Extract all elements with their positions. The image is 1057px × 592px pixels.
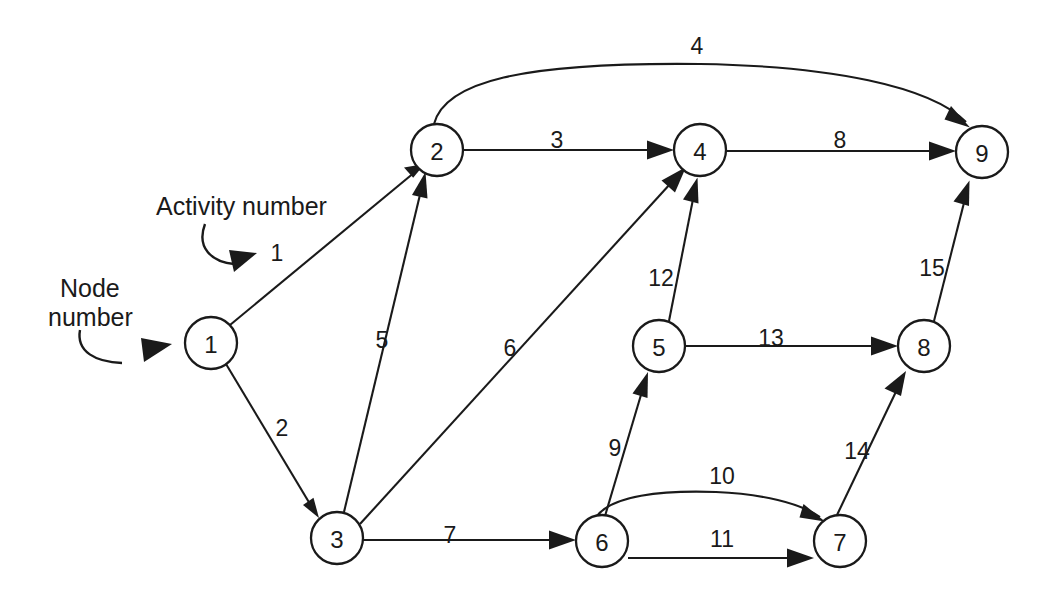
- arrowhead-icon: [885, 371, 907, 396]
- network-diagram-svg: 1 2 3 4 5 6 7 8 9 10 11 12 13 14 15 1 2: [0, 0, 1057, 592]
- annotation-activity-number: Activity number: [156, 192, 327, 272]
- edge-6-to-7-curved[interactable]: [597, 492, 825, 522]
- annotation-node-number: Node number: [48, 274, 172, 363]
- arrowhead-icon: [929, 142, 956, 161]
- edge-8-to-9[interactable]: [934, 181, 970, 322]
- edge-5-to-4[interactable]: [669, 178, 699, 322]
- node-1[interactable]: 1: [185, 317, 237, 369]
- node-1-label: 1: [204, 331, 217, 358]
- annotation-arrowhead-icon: [141, 338, 172, 362]
- annotation-node-number-curve: [79, 330, 122, 363]
- edge-label-activity-4: 4: [691, 33, 704, 59]
- annotation-activity-number-curve: [202, 224, 234, 264]
- edge-label-activity-6: 6: [504, 335, 517, 361]
- edge-5-to-8[interactable]: [685, 337, 898, 356]
- node-7[interactable]: 7: [814, 515, 866, 567]
- edge-label-activity-3: 3: [551, 127, 564, 153]
- node-9-label: 9: [975, 140, 988, 167]
- edge-label-activity-14: 14: [844, 438, 870, 464]
- annotation-node-number-label-line1: Node: [60, 274, 120, 302]
- arrowhead-icon: [303, 498, 319, 518]
- annotation-activity-number-label: Activity number: [156, 192, 327, 220]
- node-6-label: 6: [595, 529, 608, 556]
- arrowhead-icon: [954, 181, 970, 207]
- node-5-label: 5: [652, 334, 665, 361]
- node-4[interactable]: 4: [674, 124, 726, 176]
- node-6[interactable]: 6: [576, 515, 628, 567]
- edge-2-to-4[interactable]: [463, 141, 674, 160]
- arrowhead-icon: [647, 141, 674, 160]
- edges-layer: [226, 64, 970, 568]
- edge-label-activity-8: 8: [834, 127, 847, 153]
- edge-3-to-6[interactable]: [363, 531, 576, 550]
- annotation-node-number-label-line2: number: [48, 303, 133, 331]
- edge-label-activity-5: 5: [376, 327, 389, 353]
- edge-label-activity-12: 12: [648, 265, 674, 291]
- node-8[interactable]: 8: [898, 320, 950, 372]
- edge-1-to-3[interactable]: [226, 364, 319, 518]
- node-2[interactable]: 2: [411, 124, 463, 176]
- edge-label-activity-9: 9: [609, 435, 622, 461]
- node-4-label: 4: [693, 138, 706, 165]
- node-3-label: 3: [330, 526, 343, 553]
- arrowhead-icon: [683, 178, 699, 204]
- annotation-arrowhead-icon: [229, 250, 257, 272]
- network-diagram-canvas: 1 2 3 4 5 6 7 8 9 10 11 12 13 14 15 1 2: [0, 0, 1057, 592]
- edge-label-activity-11: 11: [710, 526, 734, 552]
- node-9[interactable]: 9: [956, 126, 1008, 178]
- edge-label-activity-7: 7: [444, 522, 457, 548]
- arrowhead-icon: [633, 372, 649, 398]
- node-5[interactable]: 5: [633, 320, 685, 372]
- arrowhead-icon: [800, 504, 826, 522]
- arrowhead-icon: [549, 531, 576, 550]
- edge-label-activity-15: 15: [919, 255, 945, 281]
- arrowhead-icon: [871, 337, 898, 356]
- node-8-label: 8: [917, 334, 930, 361]
- node-7-label: 7: [833, 529, 846, 556]
- edge-labels-layer: 1 2 3 4 5 6 7 8 9 10 11 12 13 14 15: [271, 33, 945, 552]
- edge-2-to-9[interactable]: [434, 64, 970, 128]
- arrowhead-icon: [787, 549, 814, 568]
- edge-label-activity-13: 13: [758, 325, 784, 351]
- edge-label-activity-10: 10: [709, 463, 735, 489]
- edge-label-activity-1: 1: [271, 240, 284, 266]
- node-3[interactable]: 3: [311, 512, 363, 564]
- edge-label-activity-2: 2: [276, 415, 289, 441]
- node-2-label: 2: [430, 138, 443, 165]
